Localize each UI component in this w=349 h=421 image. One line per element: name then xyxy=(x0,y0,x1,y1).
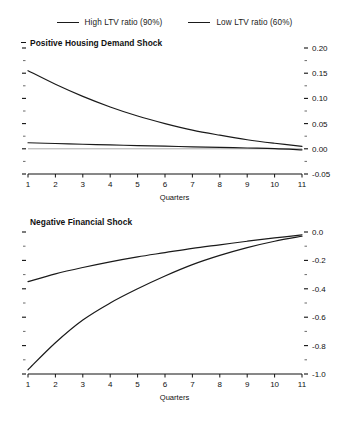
x-axis-label-2: Quarters xyxy=(0,393,349,402)
svg-text:1: 1 xyxy=(26,380,31,389)
series-line-high-ltv xyxy=(28,71,302,147)
legend-line-swatch-high-ltv xyxy=(57,22,79,23)
svg-text:5: 5 xyxy=(135,180,140,189)
svg-text:4: 4 xyxy=(108,180,113,189)
legend-label-low-ltv: Low LTV ratio (60%) xyxy=(216,18,292,27)
svg-text:2: 2 xyxy=(53,180,58,189)
chart-plot-area-1: 1234567891011-0.050.000.050.100.150.20 xyxy=(0,34,349,214)
series-line-high-ltv xyxy=(28,236,302,369)
x-axis-label-1: Quarters xyxy=(0,193,349,202)
svg-text:-0.2: -0.2 xyxy=(312,256,326,265)
svg-text:10: 10 xyxy=(270,380,279,389)
chart-panel-positive-housing-demand-shock: Positive Housing Demand Shock 1234567891… xyxy=(0,34,349,214)
svg-text:-0.4: -0.4 xyxy=(312,285,326,294)
chart-panel-negative-financial-shock: Negative Financial Shock 1234567891011-1… xyxy=(0,214,349,414)
svg-text:1: 1 xyxy=(26,180,31,189)
svg-text:10: 10 xyxy=(270,180,279,189)
legend-label-high-ltv: High LTV ratio (90%) xyxy=(85,18,163,27)
svg-text:-1.0: -1.0 xyxy=(312,370,326,379)
svg-text:-0.6: -0.6 xyxy=(312,313,326,322)
svg-text:0.10: 0.10 xyxy=(312,94,328,103)
chart-plot-area-2: 1234567891011-1.0-0.8-0.6-0.4-0.20.0 xyxy=(0,214,349,414)
svg-text:-0.8: -0.8 xyxy=(312,342,326,351)
svg-text:6: 6 xyxy=(163,380,168,389)
chart-legend: High LTV ratio (90%) Low LTV ratio (60%) xyxy=(0,0,349,34)
svg-text:7: 7 xyxy=(190,380,195,389)
series-line-low-ltv xyxy=(28,235,302,282)
svg-text:0.00: 0.00 xyxy=(312,145,328,154)
svg-text:-0.05: -0.05 xyxy=(312,170,331,179)
svg-text:0.15: 0.15 xyxy=(312,69,328,78)
legend-line-swatch-low-ltv xyxy=(188,22,210,23)
svg-text:9: 9 xyxy=(245,380,250,389)
svg-text:2: 2 xyxy=(53,380,58,389)
svg-text:5: 5 xyxy=(135,380,140,389)
svg-text:7: 7 xyxy=(190,180,195,189)
svg-text:4: 4 xyxy=(108,380,113,389)
svg-text:0.05: 0.05 xyxy=(312,120,328,129)
legend-item-high-ltv: High LTV ratio (90%) xyxy=(57,18,163,27)
svg-text:11: 11 xyxy=(298,180,307,189)
svg-text:8: 8 xyxy=(218,180,223,189)
svg-text:3: 3 xyxy=(81,380,86,389)
svg-text:8: 8 xyxy=(218,380,223,389)
legend-item-low-ltv: Low LTV ratio (60%) xyxy=(188,18,292,27)
svg-text:6: 6 xyxy=(163,180,168,189)
svg-text:11: 11 xyxy=(298,380,307,389)
svg-text:0.20: 0.20 xyxy=(312,44,328,53)
svg-text:0.0: 0.0 xyxy=(312,228,324,237)
svg-text:3: 3 xyxy=(81,180,86,189)
svg-text:9: 9 xyxy=(245,180,250,189)
